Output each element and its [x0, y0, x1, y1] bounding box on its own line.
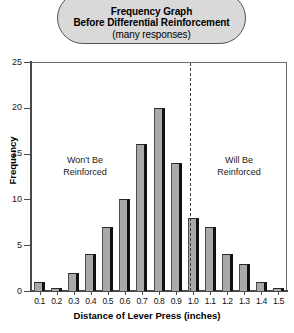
annotation-right-line-2: Reinforced	[198, 167, 280, 179]
bar	[256, 282, 267, 291]
bar	[85, 254, 96, 291]
annotation-left-line-2: Reinforced	[44, 167, 126, 179]
reinforcement-threshold-line	[190, 63, 191, 291]
bar	[68, 273, 79, 291]
annotation-wont-be-reinforced: Won't Be Reinforced	[44, 155, 126, 178]
x-axis-tick	[125, 291, 126, 295]
annotation-right-line-1: Will Be	[198, 155, 280, 167]
y-axis-tick-label: 25	[0, 58, 22, 67]
bar	[102, 227, 113, 291]
x-axis-title: Distance of Lever Press (inches)	[0, 310, 294, 321]
y-axis-title: Frequency	[7, 116, 18, 206]
x-axis-tick	[244, 291, 245, 295]
y-axis-tick	[24, 108, 31, 109]
y-axis-tick	[24, 154, 31, 155]
bar	[171, 163, 182, 291]
annotation-will-be-reinforced: Will Be Reinforced	[198, 155, 280, 178]
x-axis-tick	[193, 291, 194, 295]
bar	[239, 264, 250, 291]
y-axis-line	[30, 61, 32, 292]
x-axis-tick	[176, 291, 177, 295]
bar	[222, 254, 233, 291]
y-axis-tick-label: 5	[0, 241, 22, 250]
bar	[34, 282, 45, 291]
bar	[205, 227, 216, 291]
bar	[136, 144, 147, 291]
x-axis-tick	[210, 291, 211, 295]
x-axis-tick	[40, 291, 41, 295]
x-axis-tick	[108, 291, 109, 295]
bar	[154, 108, 165, 291]
x-axis-tick	[74, 291, 75, 295]
x-axis-tick-label: 1.5	[267, 296, 289, 306]
bar	[51, 288, 62, 291]
x-axis-tick	[261, 291, 262, 295]
x-axis-tick	[227, 291, 228, 295]
annotation-left-line-1: Won't Be	[44, 155, 126, 167]
frequency-bar-chart: 0510152025 0.10.20.30.40.50.60.70.80.91.…	[0, 0, 294, 333]
y-axis-tick	[24, 245, 31, 246]
x-axis-tick	[91, 291, 92, 295]
y-axis-tick	[24, 62, 31, 63]
x-axis-tick	[57, 291, 58, 295]
y-axis-tick	[24, 291, 31, 292]
y-axis-tick-label: 0	[0, 287, 22, 296]
x-axis-tick	[278, 291, 279, 295]
y-axis-tick	[24, 199, 31, 200]
y-axis-tick-label: 20	[0, 103, 22, 112]
x-axis-tick	[142, 291, 143, 295]
bar	[273, 288, 284, 291]
bar	[119, 199, 130, 291]
x-axis-tick	[159, 291, 160, 295]
